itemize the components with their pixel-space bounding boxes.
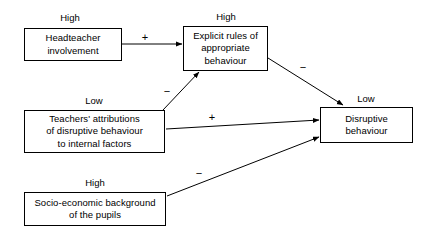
level-label-teachers-attributions: Low — [54, 95, 134, 106]
edge-sign-socio-to-disruptive: − — [189, 168, 209, 179]
node-label: Teachers' attributions of disruptive beh… — [25, 113, 164, 151]
edge-sign-headteacher-to-explicit-rules: + — [135, 32, 155, 43]
level-label-disruptive-behaviour: Low — [326, 93, 406, 104]
node-label: Headteacher involvement — [25, 32, 121, 57]
level-label-headteacher: High — [30, 12, 110, 23]
node-headteacher-involvement[interactable]: Headteacher involvement — [24, 28, 122, 61]
node-label: Disruptive behaviour — [321, 113, 412, 138]
node-label: Explicit rules of appropriate behaviour — [184, 30, 267, 68]
node-explicit-rules[interactable]: Explicit rules of appropriate behaviour — [183, 26, 268, 71]
diagram-canvas: Headteacher involvement Explicit rules o… — [0, 0, 438, 238]
level-label-explicit-rules: High — [186, 11, 266, 22]
node-label: Socio-economic background of the pupils — [25, 197, 165, 222]
level-label-socio-economic: High — [55, 177, 135, 188]
node-disruptive-behaviour[interactable]: Disruptive behaviour — [320, 107, 413, 143]
edge-sign-teachers-to-disruptive: + — [202, 112, 222, 123]
edge-socio-to-disruptive — [167, 137, 319, 196]
edge-teachers-to-disruptive — [166, 120, 319, 129]
node-socio-economic-background[interactable]: Socio-economic background of the pupils — [24, 192, 166, 226]
edge-sign-explicit-rules-to-disruptive: − — [293, 62, 313, 73]
edge-sign-teachers-to-explicit-rules: − — [157, 86, 177, 97]
node-teachers-attributions[interactable]: Teachers' attributions of disruptive beh… — [24, 110, 165, 153]
